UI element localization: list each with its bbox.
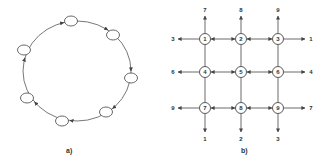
ring-node (65, 16, 78, 26)
wrap-label-right: 4 (309, 69, 313, 75)
wrap-label-bottom: 1 (203, 136, 207, 142)
wrap-label-top: 8 (239, 7, 243, 13)
ring-node (56, 116, 69, 126)
ring-arrow-icon (35, 102, 37, 104)
caption-a: a) (66, 147, 72, 154)
ring-node (107, 30, 120, 40)
ring-node (125, 73, 138, 83)
diagram-canvas: 718293316497123456789 (0, 0, 327, 165)
wrap-label-left: 9 (171, 105, 175, 111)
torus-grid-network: 718293316497123456789 (171, 7, 313, 142)
ring-arrow-icon (113, 107, 115, 109)
wrap-label-left: 6 (171, 69, 175, 75)
wrap-label-left: 3 (171, 36, 175, 42)
wrap-label-bottom: 3 (276, 136, 280, 142)
caption-b: b) (241, 147, 248, 154)
wrap-label-right: 1 (309, 36, 313, 42)
ring-node (21, 93, 34, 103)
ring-node (100, 107, 113, 117)
wrap-label-bottom: 2 (239, 136, 243, 142)
wrap-label-top: 9 (276, 7, 280, 13)
ring-network (18, 16, 138, 126)
wrap-label-right: 7 (309, 105, 313, 111)
wrap-label-top: 7 (203, 7, 207, 13)
ring-node (18, 45, 31, 55)
